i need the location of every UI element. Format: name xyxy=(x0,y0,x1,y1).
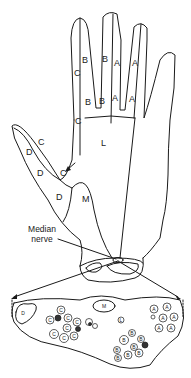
hand-outline xyxy=(71,13,175,258)
svg-text:C: C xyxy=(48,317,52,323)
svg-text:C: C xyxy=(52,331,56,337)
svg-text:B: B xyxy=(82,55,88,65)
median-nerve-diagram: C B B A A B B A A C C L D C D C D M Medi… xyxy=(0,0,191,378)
svg-text:C: C xyxy=(72,333,76,339)
fascicle-d-label: D xyxy=(21,310,25,316)
svg-text:M: M xyxy=(82,194,90,204)
fascicle-d-region xyxy=(16,304,37,324)
median-border xyxy=(72,182,112,258)
svg-text:C: C xyxy=(74,68,81,78)
svg-text:C: C xyxy=(62,335,66,341)
fascicle-m-label: M xyxy=(102,303,106,309)
svg-text:B: B xyxy=(85,97,91,107)
svg-text:A: A xyxy=(129,94,135,104)
svg-text:A: A xyxy=(112,93,118,103)
median-nerve-label-line2: nerve xyxy=(31,234,53,244)
svg-text:C: C xyxy=(38,137,45,147)
svg-text:C: C xyxy=(60,168,67,178)
ring-midline xyxy=(134,24,141,118)
ulnar-boundary xyxy=(120,118,135,258)
projection-right xyxy=(118,261,178,297)
middle-midline xyxy=(111,14,113,123)
fascicles-a: A A A A A A xyxy=(150,303,178,332)
svg-text:C: C xyxy=(66,315,70,321)
svg-text:B: B xyxy=(102,54,108,64)
svg-text:D: D xyxy=(56,192,63,202)
median-nerve-label-line1: Median xyxy=(28,224,56,234)
svg-text:A: A xyxy=(114,58,120,68)
palm-crease xyxy=(85,116,135,118)
svg-text:L: L xyxy=(120,317,123,323)
arrow-left-icon xyxy=(11,294,17,299)
fascicles-c: C C C C C C C C xyxy=(46,306,98,343)
svg-text:D: D xyxy=(26,147,33,157)
svg-text:C: C xyxy=(65,325,69,331)
svg-text:C: C xyxy=(75,319,79,325)
svg-text:C: C xyxy=(59,307,63,313)
svg-text:A: A xyxy=(132,58,138,68)
hand-labels: C B B A A B B A A C C L D C D C D M xyxy=(26,54,138,204)
svg-text:L: L xyxy=(101,138,106,148)
svg-text:D: D xyxy=(37,168,44,178)
fascicles-b: B B B B B B B B xyxy=(114,330,149,362)
projection-left xyxy=(14,261,118,297)
svg-text:B: B xyxy=(99,96,105,106)
